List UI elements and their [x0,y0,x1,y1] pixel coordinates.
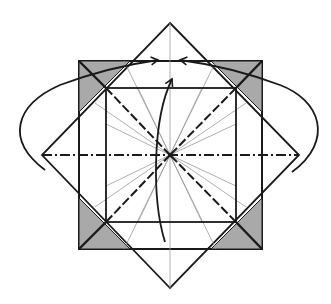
origami-diagram: Square base with rotated diamond; fold c… [0,0,331,304]
center-point [168,153,172,157]
